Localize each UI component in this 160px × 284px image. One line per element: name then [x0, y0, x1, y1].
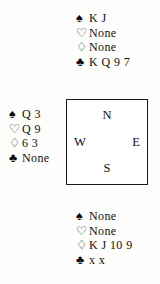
compass-label-north: N — [67, 109, 147, 122]
heart-suit-icon: ♡ — [76, 224, 88, 239]
spade-suit-icon: ♠ — [76, 209, 88, 224]
south-clubs-row: ♣ x x — [76, 253, 133, 268]
west-hearts-cards: Q 9 — [21, 122, 41, 137]
compass-box: N W E S — [66, 99, 148, 185]
south-diamonds-row: ♢ K J 10 9 — [76, 238, 133, 253]
club-suit-icon: ♣ — [76, 253, 88, 268]
compass-label-west: W — [74, 136, 86, 149]
west-spades-cards: Q 3 — [21, 107, 41, 122]
spade-suit-icon: ♠ — [76, 11, 88, 26]
bridge-hand-diagram: ♠ K J ♡ None ♢ None ♣ K Q 9 7 ♠ Q 3 ♡ Q … — [0, 0, 160, 284]
south-spades-row: ♠ None — [76, 209, 133, 224]
spade-suit-icon: ♠ — [9, 107, 21, 122]
west-clubs-row: ♣ None — [9, 151, 50, 166]
south-spades-cards: None — [88, 209, 117, 224]
west-diamonds-row: ♢ 6 3 — [9, 136, 50, 151]
north-clubs-row: ♣ K Q 9 7 — [76, 55, 130, 70]
diamond-suit-icon: ♢ — [76, 238, 88, 253]
west-diamonds-cards: 6 3 — [21, 136, 38, 151]
compass-label-east: E — [132, 136, 140, 149]
west-spades-row: ♠ Q 3 — [9, 107, 50, 122]
club-suit-icon: ♣ — [9, 151, 21, 166]
north-hand: ♠ K J ♡ None ♢ None ♣ K Q 9 7 — [76, 11, 130, 69]
north-spades-cards: K J — [88, 11, 107, 26]
north-diamonds-row: ♢ None — [76, 40, 130, 55]
west-hearts-row: ♡ Q 9 — [9, 122, 50, 137]
north-hearts-cards: None — [88, 26, 117, 41]
south-hand: ♠ None ♡ None ♢ K J 10 9 ♣ x x — [76, 209, 133, 267]
south-diamonds-cards: K J 10 9 — [88, 238, 133, 253]
north-hearts-row: ♡ None — [76, 26, 130, 41]
south-clubs-cards: x x — [88, 253, 105, 268]
north-clubs-cards: K Q 9 7 — [88, 55, 130, 70]
west-hand: ♠ Q 3 ♡ Q 9 ♢ 6 3 ♣ None — [9, 107, 50, 165]
diamond-suit-icon: ♢ — [9, 136, 21, 151]
south-hearts-row: ♡ None — [76, 224, 133, 239]
north-spades-row: ♠ K J — [76, 11, 130, 26]
heart-suit-icon: ♡ — [9, 122, 21, 137]
compass-label-south: S — [67, 162, 147, 175]
heart-suit-icon: ♡ — [76, 26, 88, 41]
club-suit-icon: ♣ — [76, 55, 88, 70]
diamond-suit-icon: ♢ — [76, 40, 88, 55]
north-diamonds-cards: None — [88, 40, 117, 55]
south-hearts-cards: None — [88, 224, 117, 239]
west-clubs-cards: None — [21, 151, 50, 166]
